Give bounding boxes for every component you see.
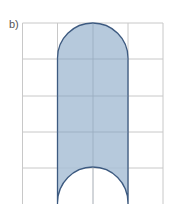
grid-diagram [0,0,178,204]
